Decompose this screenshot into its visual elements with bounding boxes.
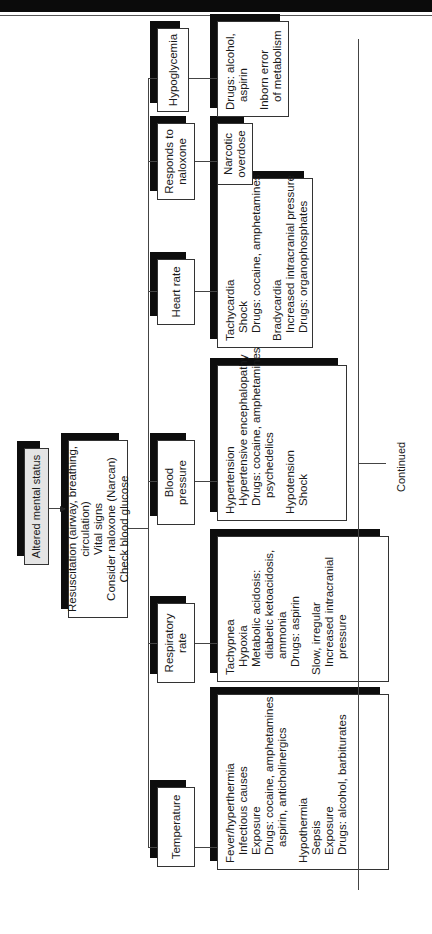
branch-label: Heart rate: [170, 266, 183, 317]
branch-label: naloxone: [176, 138, 189, 185]
details-temperature: Fever/hyperthermia Infectious causes Exp…: [217, 694, 389, 870]
branch-heart-rate: Heart rate: [157, 259, 195, 325]
detail-line: aspirin, anticholinergics: [276, 701, 289, 863]
connector: [148, 847, 157, 848]
detail-line: pressure: [336, 543, 349, 675]
detail-line: Increased intracranial pressure: [284, 185, 297, 341]
branch-label: Temperature: [170, 795, 183, 860]
initial-line: Check blood glucose: [118, 476, 131, 583]
detail-line: Exposure: [250, 701, 263, 863]
detail-line: Drugs: cocaine, amphetamines,: [250, 372, 263, 514]
detail-line: Drugs: alcohol,: [224, 28, 237, 110]
initial-assessment-node: Resuscitation (airway, breathing, circul…: [68, 440, 128, 618]
detail-line: overdose: [235, 130, 248, 177]
detail-line: ammonia: [276, 543, 289, 675]
details-responds-to-naloxone: Narcotic overdose: [217, 123, 253, 185]
branch-respiratory-rate: Respiratory rate: [157, 603, 195, 683]
connector: [195, 291, 217, 292]
branch-label: Blood pressure: [163, 445, 189, 520]
connector: [148, 161, 157, 162]
branch-label: Respiratory rate: [163, 608, 189, 678]
detail-line: Shock: [237, 185, 250, 341]
branch-spine: [148, 78, 149, 848]
detail-line: Shock: [297, 372, 310, 514]
connector: [195, 161, 217, 162]
detail-line: Increased intracranial: [323, 543, 336, 675]
detail-line: Drugs: cocaine, amphetamines: [263, 701, 276, 863]
detail-line: diabetic ketoacidosis,: [263, 543, 276, 675]
detail-line: Drugs: cocaine, amphetamines: [250, 185, 263, 341]
initial-line: Consider naloxone (Narcan): [105, 457, 118, 601]
detail-line: Hypothermia: [297, 701, 310, 863]
connector: [195, 643, 217, 644]
initial-line: Vital signs: [92, 503, 105, 555]
flowchart: Altered mental status Resuscitation (air…: [0, 0, 432, 934]
continued-label: Continued: [395, 442, 407, 492]
detail-line: of metabolism: [271, 28, 284, 110]
detail-line: Drugs: aspirin: [289, 543, 302, 675]
detail-line: Hypertensive encephalopathy: [237, 372, 250, 514]
connector: [148, 78, 157, 79]
details-respiratory-rate: Tachypnea Hypoxia Metabolic acidosis: di…: [217, 536, 389, 682]
connector: [148, 481, 157, 482]
detail-line: Narcotic: [222, 133, 235, 175]
root-node: Altered mental status: [24, 448, 49, 565]
detail-line: Infectious causes: [237, 701, 250, 863]
detail-line: Exposure: [323, 701, 336, 863]
detail-line: Sepsis: [310, 701, 323, 863]
connector: [195, 847, 217, 848]
connector: [148, 643, 157, 644]
detail-line: Tachycardia: [224, 185, 237, 341]
detail-line: Hypoxia: [237, 543, 250, 675]
detail-line: Hypertension: [224, 372, 237, 514]
detail-line: Hypotension: [284, 372, 297, 514]
collector-bar: [358, 39, 359, 890]
connector: [189, 78, 217, 79]
detail-line: psychedelics: [263, 372, 276, 514]
continued-connector: [358, 463, 386, 464]
branch-temperature: Temperature: [157, 787, 195, 867]
branch-blood-pressure: Blood pressure: [157, 440, 195, 525]
detail-line: Drugs: organophosphates: [297, 185, 310, 341]
detail-line: Bradycardia: [271, 185, 284, 341]
detail-line: aspirin: [237, 28, 250, 110]
detail-line: Tachypnea: [224, 543, 237, 675]
detail-line: Metabolic acidosis:: [250, 543, 263, 675]
detail-line: Inborn error: [258, 28, 271, 110]
connector: [148, 291, 157, 292]
detail-line: Slow, irregular: [310, 543, 323, 675]
connector: [195, 481, 217, 482]
branch-label: Hypoglycemia: [167, 34, 180, 106]
root-label: Altered mental status: [30, 455, 43, 558]
details-heart-rate: Tachycardia Shock Drugs: cocaine, amphet…: [217, 178, 313, 348]
detail-line: Drugs: alcohol, barbiturates: [336, 701, 349, 863]
connector: [128, 528, 148, 529]
branch-hypoglycemia: Hypoglycemia: [157, 28, 189, 112]
detail-line: Fever/hyperthermia: [224, 701, 237, 863]
details-hypoglycemia: Drugs: alcohol, aspirin Inborn error of …: [217, 21, 289, 117]
branch-label: Responds to: [163, 129, 176, 194]
details-blood-pressure: Hypertension Hypertensive encephalopathy…: [217, 365, 347, 521]
branch-responds-to-naloxone: Responds to naloxone: [157, 123, 195, 200]
initial-line: Resuscitation (airway, breathing, circul…: [66, 445, 92, 613]
